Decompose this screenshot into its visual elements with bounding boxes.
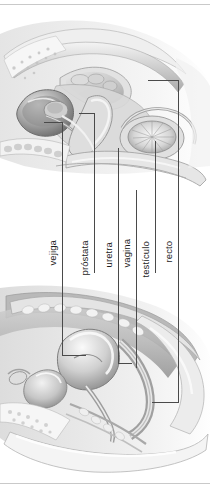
leader-pointer-vejiga-male: [44, 122, 63, 123]
bottom-divider-rule: [0, 483, 210, 484]
label-prostata: próstata: [80, 240, 90, 275]
leader-line-recto: [178, 80, 179, 403]
leader-line-prostata: [94, 113, 95, 273]
label-recto: recto: [164, 241, 174, 263]
label-uretra: uretra: [104, 242, 114, 267]
leader-pointer-uretra: [118, 363, 132, 364]
label-testiculo: testículo: [141, 241, 151, 277]
leader-line-vagina: [136, 190, 137, 368]
leader-pointer-prostata: [79, 113, 95, 114]
label-vagina: vagina: [122, 239, 132, 268]
leader-line-uretra: [118, 148, 119, 364]
leader-bracket-recto-top: [148, 80, 179, 81]
leader-pointer-vejiga-female: [62, 355, 86, 356]
label-vejiga: vejiga: [48, 240, 58, 265]
leader-line-testiculo: [155, 141, 156, 273]
anatomy-figure: vejiga próstata uretra vagina testículo …: [0, 0, 210, 490]
leader-line-vejiga: [62, 122, 63, 356]
top-divider-rule: [0, 4, 210, 5]
leader-pointer-recto-female: [152, 402, 179, 403]
